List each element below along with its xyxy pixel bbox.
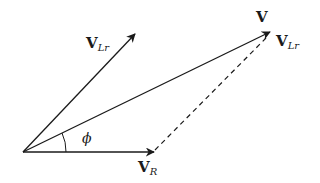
label-v-r: VR bbox=[137, 158, 158, 177]
dashed-vector-v-lr bbox=[155, 38, 266, 150]
phasor-diagram: VR VLr V VLr ϕ bbox=[0, 0, 320, 183]
label-phi: ϕ bbox=[82, 130, 92, 146]
diagram-svg: VR VLr V VLr ϕ bbox=[0, 0, 320, 183]
label-v-lr-left: VLr bbox=[85, 34, 110, 53]
label-v-lr-right: VLr bbox=[275, 32, 300, 51]
angle-arc bbox=[62, 133, 66, 152]
vector-v-lr bbox=[23, 34, 135, 152]
label-v: V bbox=[255, 8, 268, 26]
vector-v bbox=[23, 32, 270, 152]
